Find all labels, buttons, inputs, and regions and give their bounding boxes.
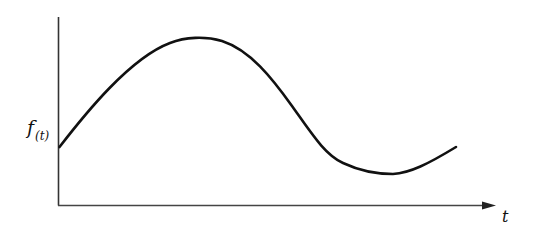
function-curve bbox=[60, 38, 457, 174]
x-axis-label: t bbox=[502, 209, 508, 225]
y-axis-label-subscript: (t) bbox=[35, 129, 49, 143]
y-axis-label-main: f bbox=[27, 116, 34, 138]
y-axis-label: f(t) bbox=[27, 118, 49, 137]
function-plot bbox=[0, 0, 538, 227]
x-axis-arrow-icon bbox=[482, 202, 496, 210]
